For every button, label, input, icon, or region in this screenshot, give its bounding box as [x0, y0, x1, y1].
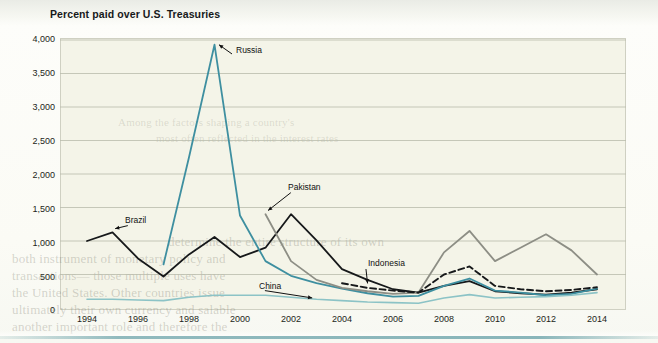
series-label-brazil: Brazil — [125, 215, 146, 225]
x-tick-label: 2012 — [536, 314, 556, 324]
x-tick-label: 2000 — [230, 314, 250, 324]
x-tick-label: 1996 — [128, 314, 148, 324]
series-line-china — [87, 293, 597, 304]
y-tick-label: 2,000 — [32, 170, 55, 180]
series-line-indonesia — [342, 266, 597, 292]
y-tick-label: 1,500 — [32, 204, 55, 214]
plot-area: Among the factors shaping a country's mo… — [60, 38, 626, 310]
x-tick-label: 1998 — [179, 314, 199, 324]
x-tick-label: 2004 — [332, 314, 352, 324]
series-label-indonesia: Indonesia — [368, 258, 405, 268]
y-axis: 4,000 3,500 3,000 2,500 2,000 1,500 1,00… — [0, 38, 55, 310]
y-tick-label: 3,000 — [32, 102, 55, 112]
y-tick-label: 0 — [50, 305, 55, 315]
y-tick-label: 3,500 — [32, 68, 55, 78]
series-label-pakistan: Pakistan — [288, 182, 321, 192]
series-label-russia: Russia — [236, 45, 262, 55]
x-tick-label: 2010 — [485, 314, 505, 324]
y-tick-label: 1,000 — [32, 238, 55, 248]
y-tick-label: 4,000 — [32, 34, 55, 44]
x-tick-label: 2006 — [383, 314, 403, 324]
chart-title: Percent paid over U.S. Treasuries — [50, 8, 220, 20]
x-tick-label: 2014 — [587, 314, 607, 324]
x-tick-label: 1994 — [77, 314, 97, 324]
annotation-leaders — [115, 45, 369, 299]
x-tick-label: 2002 — [281, 314, 301, 324]
y-tick-label: 2,500 — [32, 136, 55, 146]
gridlines — [60, 40, 626, 275]
chart-canvas — [60, 38, 626, 310]
arrowhead-brazil — [115, 226, 120, 230]
series-label-china: China — [259, 281, 281, 291]
arrowhead-russia — [219, 45, 224, 49]
x-tick-label: 2008 — [434, 314, 454, 324]
y-tick-label: 500 — [40, 272, 55, 282]
page-bottom-rule — [0, 336, 658, 339]
